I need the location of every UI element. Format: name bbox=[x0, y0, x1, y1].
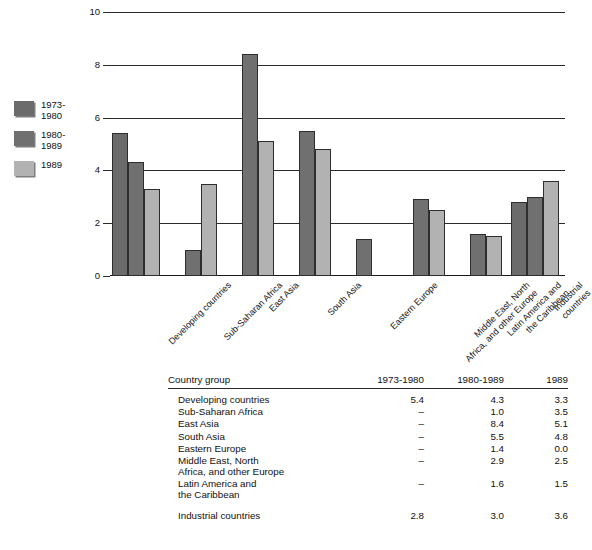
table-cell-1980-1989: 1.4 bbox=[424, 442, 504, 454]
table-cell-country: South Asia bbox=[168, 430, 344, 442]
bar-group-bars bbox=[454, 12, 502, 276]
chart-bar bbox=[258, 141, 274, 276]
bar-group bbox=[454, 12, 502, 276]
bar-group bbox=[169, 12, 217, 276]
table-cell-1980-1989: 1.6 bbox=[424, 478, 504, 501]
y-axis-tick-label: 6 bbox=[95, 113, 100, 123]
chart-bar bbox=[356, 239, 372, 276]
chart-bar bbox=[527, 197, 543, 276]
bar-group-bars bbox=[340, 12, 388, 276]
table-cell-1989: 2.5 bbox=[504, 454, 568, 477]
y-axis-tick bbox=[103, 118, 110, 119]
legend-item: 1973- 1980 bbox=[14, 100, 94, 126]
bar-group bbox=[226, 12, 274, 276]
table-cell-1980-1989: 4.3 bbox=[424, 389, 504, 406]
bar-group bbox=[397, 12, 445, 276]
table-header-1973-1980: 1973-1980 bbox=[344, 374, 424, 389]
chart-bar bbox=[201, 184, 217, 276]
table-header: Country group 1973-1980 1980-1989 1989 bbox=[168, 374, 568, 389]
table-cell-country: Middle East, North Africa, and other Eur… bbox=[168, 454, 344, 477]
table-header-row: Country group 1973-1980 1980-1989 1989 bbox=[168, 374, 568, 389]
table-header-1980-1989: 1980-1989 bbox=[424, 374, 504, 389]
legend-swatch-icon bbox=[14, 101, 34, 116]
chart-bar bbox=[543, 181, 559, 276]
table-cell-1980-1989: 5.5 bbox=[424, 430, 504, 442]
table-header-1989: 1989 bbox=[504, 374, 568, 389]
bar-group bbox=[511, 12, 559, 276]
chart-bar bbox=[511, 202, 527, 276]
chart-bar bbox=[128, 162, 144, 276]
table-cell-1973-1980: – bbox=[344, 478, 424, 501]
table-row: Eastern Europe–1.40.0 bbox=[168, 442, 568, 454]
table-row: Industrial countries2.83.03.6 bbox=[168, 501, 568, 522]
chart-bar bbox=[299, 131, 315, 276]
table-cell-1980-1989: 3.0 bbox=[424, 501, 504, 522]
legend-item-label: 1980- 1989 bbox=[41, 130, 65, 151]
table-cell-1989: 3.3 bbox=[504, 389, 568, 406]
bar-chart-figure: 1973- 19801980- 19891989 0246810Developi… bbox=[0, 0, 580, 372]
y-axis-tick-label: 4 bbox=[95, 165, 100, 175]
legend-item: 1980- 1989 bbox=[14, 130, 94, 156]
table-header-country-group: Country group bbox=[168, 374, 344, 389]
table-cell-1973-1980: – bbox=[344, 406, 424, 418]
table-cell-country: Industrial countries bbox=[168, 501, 344, 522]
x-axis-category-label: South Asia bbox=[326, 280, 364, 318]
legend-swatch-icon bbox=[14, 161, 34, 176]
table-cell-1980-1989: 2.9 bbox=[424, 454, 504, 477]
chart-bar bbox=[470, 234, 486, 276]
table-row: Developing countries5.44.33.3 bbox=[168, 389, 568, 406]
legend-item-label: 1973- 1980 bbox=[41, 100, 65, 121]
chart-bar bbox=[315, 149, 331, 276]
table-cell-1989: 3.6 bbox=[504, 501, 568, 522]
table-row: South Asia–5.54.8 bbox=[168, 430, 568, 442]
table-cell-country: East Asia bbox=[168, 418, 344, 430]
y-axis-tick-label: 8 bbox=[95, 60, 100, 70]
bar-group-bars bbox=[112, 12, 160, 276]
chart-bar bbox=[242, 54, 258, 276]
chart-bar bbox=[429, 210, 445, 276]
y-axis-tick bbox=[103, 170, 110, 171]
chart-bar bbox=[144, 189, 160, 276]
y-axis-tick-label: 0 bbox=[95, 271, 100, 281]
table-row: East Asia–8.45.1 bbox=[168, 418, 568, 430]
y-axis-tick-label: 10 bbox=[89, 7, 100, 17]
table-cell-1980-1989: 1.0 bbox=[424, 406, 504, 418]
table-cell-1973-1980: – bbox=[344, 442, 424, 454]
table-cell-country: Eastern Europe bbox=[168, 442, 344, 454]
table-body: Developing countries5.44.33.3Sub-Saharan… bbox=[168, 389, 568, 522]
chart-legend: 1973- 19801980- 19891989 bbox=[14, 100, 94, 190]
table-cell-1989: 4.8 bbox=[504, 430, 568, 442]
table-cell-country: Developing countries bbox=[168, 389, 344, 406]
bar-group-bars bbox=[169, 12, 217, 276]
table-row: Middle East, North Africa, and other Eur… bbox=[168, 454, 568, 477]
table-cell-1973-1980: 2.8 bbox=[344, 501, 424, 522]
chart-plot-area: 0246810Developing countriesSub-Saharan A… bbox=[110, 12, 565, 276]
table-cell-1989: 3.5 bbox=[504, 406, 568, 418]
table-cell-1989: 0.0 bbox=[504, 442, 568, 454]
table-cell-country: Sub-Saharan Africa bbox=[168, 406, 344, 418]
y-axis-tick bbox=[103, 276, 110, 277]
y-axis-tick bbox=[103, 65, 110, 66]
table-row: Latin America and the Caribbean–1.61.5 bbox=[168, 478, 568, 501]
y-axis-tick-label: 2 bbox=[95, 218, 100, 228]
bar-group bbox=[340, 12, 388, 276]
y-axis-tick bbox=[103, 223, 110, 224]
data-table: Country group 1973-1980 1980-1989 1989 D… bbox=[168, 374, 568, 521]
table-cell-1973-1980: 5.4 bbox=[344, 389, 424, 406]
table-cell-1973-1980: – bbox=[344, 454, 424, 477]
bar-group-bars bbox=[511, 12, 559, 276]
chart-bar bbox=[413, 199, 429, 276]
x-axis-category-label: Eastern Europe bbox=[388, 280, 440, 332]
table-cell-1989: 5.1 bbox=[504, 418, 568, 430]
table-cell-country: Latin America and the Caribbean bbox=[168, 478, 344, 501]
bar-group-bars bbox=[283, 12, 331, 276]
bar-group-bars bbox=[397, 12, 445, 276]
bar-group-bars bbox=[226, 12, 274, 276]
data-table-block: Country group 1973-1980 1980-1989 1989 D… bbox=[168, 374, 568, 521]
chart-bar bbox=[112, 133, 128, 276]
chart-bar bbox=[185, 250, 201, 276]
legend-item: 1989 bbox=[14, 160, 94, 186]
table-row: Sub-Saharan Africa–1.03.5 bbox=[168, 406, 568, 418]
chart-bar bbox=[486, 236, 502, 276]
table-cell-1973-1980: – bbox=[344, 418, 424, 430]
